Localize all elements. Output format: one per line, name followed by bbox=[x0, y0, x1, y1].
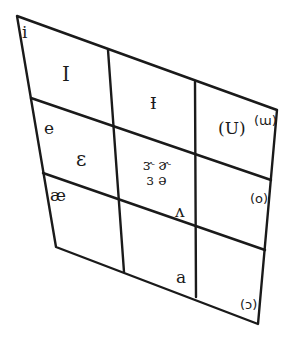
vowel-chart: i I Ɨ (U) (ɯ) e ɛ ɝ ɚ ɜ ə (o) æ ʌ a (ɔ) bbox=[0, 0, 290, 340]
vowel-open-mid-back-open-o: (ɔ) bbox=[240, 298, 257, 311]
vowel-near-open-front-ae: æ bbox=[50, 187, 66, 204]
vowel-open-mid-front-epsilon: ɛ bbox=[76, 149, 86, 169]
vowel-close-central-barred-i: Ɨ bbox=[150, 95, 157, 112]
vowel-near-close-back-u: (U) bbox=[218, 120, 246, 137]
vowel-close-mid-front-e: e bbox=[44, 120, 54, 137]
vowel-central-schwa-pair: ɜ ə bbox=[143, 173, 170, 188]
vowel-central-cluster: ɝ ɚ ɜ ə bbox=[143, 158, 170, 187]
vowel-i: i bbox=[22, 24, 27, 41]
column-divider-2 bbox=[195, 82, 196, 297]
vowel-rhotic-central-pair: ɝ ɚ bbox=[143, 158, 170, 173]
vowel-open-a: a bbox=[176, 269, 186, 286]
vowel-open-mid-back-wedge: ʌ bbox=[175, 203, 185, 220]
vowel-close-back-unrounded: (ɯ) bbox=[254, 114, 277, 127]
column-divider-1 bbox=[108, 50, 124, 272]
vowel-close-mid-back-o: (o) bbox=[250, 192, 268, 205]
vowel-near-close-front: I bbox=[62, 64, 70, 84]
